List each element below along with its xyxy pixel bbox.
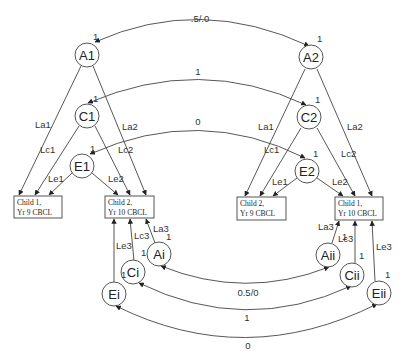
svg-text:Yr 10 CBCL: Yr 10 CBCL xyxy=(108,208,147,217)
var-cii: 1 xyxy=(359,250,364,261)
label-lc2-right: Lc2 xyxy=(341,148,356,159)
path-diagram: .5/.0 1 0 0.5/0 1 0 La1 Lc1 Le1 La2 Lc2 … xyxy=(0,0,404,362)
label-le1-left: Le1 xyxy=(48,173,64,184)
label-la1-right: La1 xyxy=(258,121,274,132)
observed-box-child2-yr9: Child 2, Yr 9 CBCL xyxy=(237,197,286,220)
observed-box-child1-yr9: Child 1, Yr 9 CBCL xyxy=(14,196,62,218)
svg-text:Child 2,: Child 2, xyxy=(108,198,132,207)
var-e2: 1 xyxy=(313,148,318,159)
corr-label-c-bottom: 1 xyxy=(244,312,249,323)
svg-text:Cii: Cii xyxy=(344,268,359,283)
var-a1: 1 xyxy=(93,31,98,42)
label-le2-right: Le2 xyxy=(332,176,348,187)
corr-arc-c-top xyxy=(88,79,306,105)
var-ai: 1 xyxy=(166,231,171,242)
svg-text:E2: E2 xyxy=(299,164,315,179)
latent-e2: E2 xyxy=(295,159,319,183)
svg-text:Ei: Ei xyxy=(108,287,120,302)
latent-c2: C2 xyxy=(297,105,321,129)
svg-text:Child 2,: Child 2, xyxy=(240,199,264,208)
label-lc2-left: Lc2 xyxy=(118,144,133,155)
latent-a1: A1 xyxy=(75,43,99,67)
observed-box-child2-yr10: Child 2, Yr 10 CBCL xyxy=(105,196,154,218)
label-le1-right: Le1 xyxy=(272,176,288,187)
latent-a2: A2 xyxy=(299,45,323,69)
svg-text:Yr 9 CBCL: Yr 9 CBCL xyxy=(17,208,52,217)
svg-text:Child 1,: Child 1, xyxy=(17,198,41,207)
svg-text:A1: A1 xyxy=(79,48,95,63)
path-eii-b4 xyxy=(372,221,375,281)
svg-text:A2: A2 xyxy=(303,50,319,65)
label-lc3-left: Lc3 xyxy=(134,230,149,241)
var-ci: 1 xyxy=(141,247,146,258)
label-la2-right: La2 xyxy=(347,121,363,132)
svg-text:Yr 9 CBCL: Yr 9 CBCL xyxy=(240,209,275,218)
corr-arc-a-bottom xyxy=(161,266,329,283)
label-lc1-right: Lc1 xyxy=(264,144,279,155)
label-la3-right: La3 xyxy=(318,221,334,232)
latent-ei: Ei xyxy=(102,282,126,306)
latent-c1: C1 xyxy=(75,104,99,128)
corr-label-e-top: 0 xyxy=(195,116,200,127)
var-c2: 1 xyxy=(315,94,320,105)
svg-text:Eii: Eii xyxy=(372,286,387,301)
svg-text:Yr 10 CBCL: Yr 10 CBCL xyxy=(338,209,377,218)
svg-text:Ci: Ci xyxy=(127,265,139,280)
latent-cii: Cii xyxy=(340,263,364,287)
corr-label-a-bottom: 0.5/0 xyxy=(237,287,258,298)
svg-text:Aii: Aii xyxy=(321,248,336,263)
path-c1-b2 xyxy=(95,126,130,195)
svg-text:C2: C2 xyxy=(301,110,318,125)
svg-text:Child 1,: Child 1, xyxy=(338,199,362,208)
corr-label-e-bottom: 0 xyxy=(245,340,250,351)
corr-label-c-top: 1 xyxy=(195,66,200,77)
label-le3-left: Le3 xyxy=(116,240,132,251)
var-c1: 1 xyxy=(93,93,98,104)
latent-ai: Ai xyxy=(147,242,171,266)
label-le2-left: Le2 xyxy=(108,173,124,184)
var-ei: 1 xyxy=(121,269,126,280)
label-la2-left: La2 xyxy=(122,121,138,132)
corr-label-a-top: .5/.0 xyxy=(191,13,210,24)
var-e1: 1 xyxy=(90,143,95,154)
latent-aii: Aii xyxy=(316,243,340,267)
var-aii: 1 xyxy=(342,231,347,242)
var-eii: 1 xyxy=(385,269,390,280)
label-la1-left: La1 xyxy=(35,119,51,130)
svg-text:C1: C1 xyxy=(79,109,96,124)
label-lc1-left: Lc1 xyxy=(40,144,55,155)
svg-text:E1: E1 xyxy=(74,159,90,174)
var-a2: 1 xyxy=(317,33,322,44)
latent-eii: Eii xyxy=(367,281,391,305)
observed-box-child1-yr10: Child 1, Yr 10 CBCL xyxy=(335,197,383,220)
latent-e1: E1 xyxy=(70,154,94,178)
svg-text:Ai: Ai xyxy=(153,247,165,262)
label-le3-right: Le3 xyxy=(376,241,392,252)
